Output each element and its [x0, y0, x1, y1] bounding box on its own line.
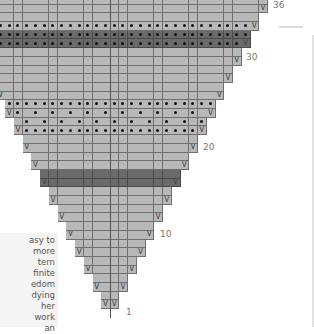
purl-dot: [113, 129, 116, 132]
purl-dot: [51, 24, 54, 27]
purl-dot: [148, 102, 151, 105]
purl-dot: [43, 120, 46, 123]
purl-dot: [25, 129, 28, 132]
purl-dot: [183, 42, 186, 45]
purl-dot: [156, 111, 159, 114]
purl-dot: [78, 42, 81, 45]
chart-cell: V: [233, 56, 242, 65]
purl-dot: [34, 111, 37, 114]
purl-dot: [16, 33, 19, 36]
purl-dot: [95, 102, 98, 105]
purl-dot: [78, 120, 81, 123]
purl-dot: [156, 129, 159, 132]
purl-dot: [148, 129, 151, 132]
side-text-line: work: [34, 312, 55, 323]
purl-dot: [209, 33, 212, 36]
purl-dot: [69, 111, 72, 114]
purl-dot: [69, 129, 72, 132]
purl-dot: [121, 111, 124, 114]
chart-cell: [171, 170, 180, 179]
purl-dot: [218, 24, 221, 27]
purl-dot: [113, 24, 116, 27]
chart-cell: V: [171, 178, 180, 187]
purl-dot: [235, 24, 238, 27]
purl-dot: [25, 42, 28, 45]
purl-dot: [226, 33, 229, 36]
purl-dot: [165, 102, 168, 105]
purl-dot: [60, 120, 63, 123]
purl-dot: [209, 102, 212, 105]
purl-dot: [104, 111, 107, 114]
purl-dot: [121, 102, 124, 105]
chart-cell: [128, 257, 137, 266]
purl-dot: [34, 42, 37, 45]
purl-dot: [69, 33, 72, 36]
purl-dot: [200, 24, 203, 27]
purl-dot: [174, 42, 177, 45]
purl-dot: [226, 24, 229, 27]
purl-dot: [86, 102, 89, 105]
purl-dot: [183, 33, 186, 36]
purl-dot: [191, 42, 194, 45]
purl-dot: [8, 42, 11, 45]
purl-dot: [104, 129, 107, 132]
purl-dot: [104, 24, 107, 27]
purl-dot: [156, 33, 159, 36]
purl-dot: [165, 120, 168, 123]
purl-dot: [156, 42, 159, 45]
decorative-rule: [279, 26, 303, 28]
purl-dot: [34, 24, 37, 27]
chart-cell: [259, 0, 268, 5]
purl-dot: [104, 102, 107, 105]
purl-dot: [130, 120, 133, 123]
purl-dot: [43, 24, 46, 27]
purl-dot: [165, 129, 168, 132]
purl-dot: [34, 33, 37, 36]
purl-dot: [200, 120, 203, 123]
chart-cell: [250, 13, 259, 22]
purl-dot: [60, 42, 63, 45]
purl-dot: [183, 24, 186, 27]
purl-dot: [104, 42, 107, 45]
purl-dot: [156, 102, 159, 105]
purl-dot: [25, 24, 28, 27]
purl-dot: [78, 102, 81, 105]
purl-dot: [16, 102, 19, 105]
purl-dot: [174, 33, 177, 36]
chart-cell: [198, 117, 207, 126]
row-label-20: 20: [203, 143, 214, 152]
purl-dot: [86, 24, 89, 27]
purl-dot: [86, 129, 89, 132]
chart-cell: V: [145, 230, 154, 239]
chart-cell: [241, 30, 250, 39]
purl-dot: [95, 120, 98, 123]
purl-dot: [95, 33, 98, 36]
side-text-line: asy to: [29, 235, 55, 246]
chart-cell: [215, 83, 224, 92]
chart-cell: V: [241, 39, 250, 48]
chart-cell: [119, 274, 128, 283]
purl-dot: [121, 129, 124, 132]
purl-dot: [78, 129, 81, 132]
chart-cell: [189, 135, 198, 144]
purl-dot: [139, 111, 142, 114]
purl-dot: [43, 102, 46, 105]
purl-dot: [69, 24, 72, 27]
chart-cell: V: [250, 22, 259, 31]
purl-dot: [8, 102, 11, 105]
purl-dot: [25, 33, 28, 36]
chart-cell: [145, 222, 154, 231]
purl-dot: [113, 42, 116, 45]
purl-dot: [235, 42, 238, 45]
purl-dot: [148, 33, 151, 36]
purl-dot: [69, 42, 72, 45]
purl-dot: [104, 33, 107, 36]
purl-dot: [113, 102, 116, 105]
chart-cell: [224, 65, 233, 74]
chart-cell: V: [198, 126, 207, 135]
purl-dot: [43, 33, 46, 36]
chart-cell: V: [189, 143, 198, 152]
purl-dot: [25, 102, 28, 105]
purl-dot: [183, 129, 186, 132]
chart-cell: [163, 187, 172, 196]
